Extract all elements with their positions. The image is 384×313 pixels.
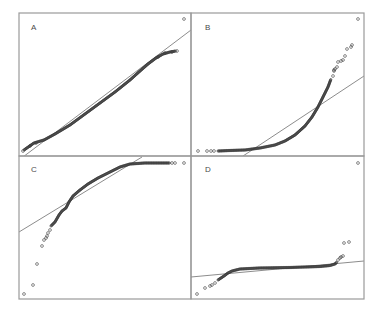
reference-line xyxy=(243,76,364,156)
outlier-point xyxy=(357,18,360,21)
outlier-point xyxy=(32,284,35,287)
panel-label-b: B xyxy=(205,23,210,32)
panel-label-a: A xyxy=(31,23,37,32)
outlier-point xyxy=(336,66,339,69)
outlier-point xyxy=(36,263,39,266)
sample-points xyxy=(197,18,360,153)
outlier-point xyxy=(332,75,335,78)
outlier-point xyxy=(210,150,213,153)
outlier-point xyxy=(346,48,349,51)
outlier-point xyxy=(204,287,207,290)
outlier-point xyxy=(183,162,186,165)
panel-b: B xyxy=(191,13,364,156)
outlier-point xyxy=(171,162,174,165)
outlier-point xyxy=(343,242,346,245)
plot-area xyxy=(197,18,364,156)
panel-label-c: C xyxy=(31,165,37,174)
outlier-point xyxy=(47,232,50,235)
plot-area xyxy=(19,18,191,160)
reference-line xyxy=(19,157,142,232)
outlier-point xyxy=(348,241,351,244)
outlier-point xyxy=(41,245,44,248)
qq-plot-grid: A B C D xyxy=(0,0,384,313)
outlier-point xyxy=(174,162,177,165)
outlier-point xyxy=(206,150,209,153)
sample-points xyxy=(22,18,186,153)
panel-border xyxy=(191,13,364,156)
panel-a: A xyxy=(19,13,191,160)
plot-area xyxy=(191,162,364,296)
panel-d: D xyxy=(191,156,364,299)
sample-points xyxy=(23,162,186,296)
outlier-point xyxy=(357,162,360,165)
panel-border xyxy=(191,156,364,299)
outlier-point xyxy=(337,61,340,64)
outlier-point xyxy=(213,150,216,153)
panel-label-d: D xyxy=(205,165,211,174)
outlier-point xyxy=(196,293,199,296)
plot-area xyxy=(19,157,185,295)
outlier-point xyxy=(183,18,186,21)
sample-points xyxy=(196,162,360,296)
panel-c: C xyxy=(19,156,191,299)
panel-border xyxy=(19,156,191,299)
outlier-point xyxy=(23,293,26,296)
outlier-point xyxy=(214,282,217,285)
panel-border xyxy=(19,13,191,156)
outlier-point xyxy=(197,150,200,153)
outlier-point xyxy=(344,55,347,58)
outlier-point xyxy=(49,229,52,232)
